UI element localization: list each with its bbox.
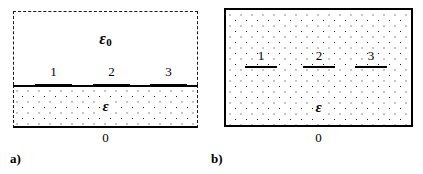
electrode-label-3-a: 3 — [150, 64, 187, 80]
electrode-bar-3-b — [355, 66, 387, 68]
epsilon-subscript: 0 — [106, 36, 112, 48]
electrode-bar-1-b — [245, 66, 277, 68]
electrode-label-3-b: 3 — [355, 48, 387, 64]
permittivity-label-b: ε — [224, 99, 413, 116]
electrode-bar-2-a — [93, 84, 130, 87]
panel-b: 1 2 3 ε 0 b) — [205, 0, 423, 174]
electrode-bar-2-b — [303, 66, 335, 68]
panel-caption-a: a) — [10, 151, 21, 167]
epsilon-symbol-a: ε — [100, 98, 110, 114]
electrode-label-1-a: 1 — [35, 64, 72, 80]
permittivity-vacuum-label: ε0 — [14, 30, 197, 48]
figure-container: ε0 ε 1 2 3 0 a) 1 2 3 ε 0 b) — [0, 0, 423, 174]
panel-a: ε0 ε 1 2 3 0 a) — [0, 0, 205, 174]
permittivity-label-a: ε — [14, 98, 197, 115]
electrode-bar-3-a — [150, 84, 187, 87]
ground-label-a: 0 — [13, 130, 198, 146]
electrode-bar-1-a — [35, 84, 72, 87]
ground-label-b: 0 — [224, 130, 413, 146]
panel-caption-b: b) — [211, 151, 223, 167]
electrode-label-2-b: 2 — [303, 48, 335, 64]
epsilon-symbol: ε — [99, 30, 106, 47]
epsilon-symbol-b: ε — [313, 99, 323, 115]
electrode-label-2-a: 2 — [93, 64, 130, 80]
electrode-label-1-b: 1 — [245, 48, 277, 64]
dielectric-slab-a: ε — [13, 85, 198, 128]
